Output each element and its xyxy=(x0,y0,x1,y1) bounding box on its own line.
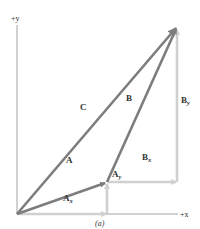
label-By: By xyxy=(181,95,190,106)
label-Ay: Ay xyxy=(112,169,122,180)
label-Ax-sub: x xyxy=(69,197,74,204)
x-axis-label: +x xyxy=(180,210,189,219)
label-A: A xyxy=(66,155,73,165)
y-axis-label: +y xyxy=(11,14,20,23)
figure-caption: (a) xyxy=(95,219,105,228)
vector-addition-diagram: +y +x C B A Ax Ay Bx By (a) xyxy=(0,0,200,229)
label-By-sub: y xyxy=(186,99,190,106)
label-Bx-sub: x xyxy=(147,156,152,163)
label-C: C xyxy=(80,102,87,112)
label-Ay-sub: y xyxy=(118,173,122,180)
label-Bx: Bx xyxy=(142,152,152,163)
label-B: B xyxy=(126,93,132,103)
